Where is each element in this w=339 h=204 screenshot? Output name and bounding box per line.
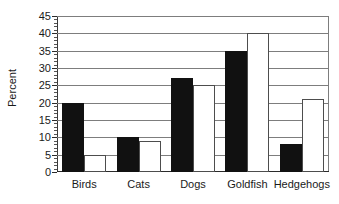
y-tick-minor (54, 99, 57, 100)
y-tick-minor (54, 123, 57, 124)
y-tick-minor (54, 96, 57, 97)
y-tick-label: 30 (39, 62, 51, 74)
y-tick-major (52, 103, 57, 104)
y-tick-label: 5 (45, 149, 51, 161)
bar (84, 155, 106, 172)
bar (62, 103, 84, 172)
y-tick-minor (54, 26, 57, 27)
y-tick-minor (54, 19, 57, 20)
y-tick-minor (54, 75, 57, 76)
bar (280, 144, 302, 172)
y-tick-minor (54, 71, 57, 72)
y-tick-minor (54, 37, 57, 38)
y-tick-major (52, 68, 57, 69)
y-tick-label: 10 (39, 131, 51, 143)
y-tick-minor (54, 23, 57, 24)
y-tick-minor (54, 144, 57, 145)
y-tick-label: 45 (39, 10, 51, 22)
y-tick-major (52, 137, 57, 138)
y-tick-label: 40 (39, 27, 51, 39)
y-tick-minor (54, 89, 57, 90)
y-tick-minor (54, 44, 57, 45)
x-axis-label: Birds (72, 178, 97, 190)
y-tick-minor (54, 151, 57, 152)
bar (302, 99, 324, 172)
bar (139, 141, 161, 172)
y-axis-title: Percent (6, 53, 18, 123)
y-tick-minor (54, 65, 57, 66)
y-tick-major (52, 172, 57, 173)
y-tick-minor (54, 61, 57, 62)
y-tick-minor (54, 130, 57, 131)
gridline (57, 16, 329, 17)
y-tick-minor (54, 158, 57, 159)
y-tick-major (52, 16, 57, 17)
y-axis-line (57, 16, 58, 172)
x-axis-label: Cats (127, 178, 150, 190)
y-tick-label: 20 (39, 97, 51, 109)
y-tick-minor (54, 165, 57, 166)
y-tick-major (52, 51, 57, 52)
x-axis-label: Dogs (180, 178, 206, 190)
x-axis-label: Hedgehogs (274, 178, 330, 190)
bar (247, 33, 269, 172)
y-tick-major (52, 33, 57, 34)
y-tick-minor (54, 117, 57, 118)
bar (117, 137, 139, 172)
gridline (57, 33, 329, 34)
bar (171, 78, 193, 172)
y-tick-minor (54, 134, 57, 135)
bar (225, 51, 247, 172)
y-tick-minor (54, 162, 57, 163)
x-axis-label: Goldfish (227, 178, 267, 190)
y-tick-major (52, 85, 57, 86)
y-tick-label: 15 (39, 114, 51, 126)
y-tick-minor (54, 141, 57, 142)
y-tick-minor (54, 30, 57, 31)
bar (193, 85, 215, 172)
y-tick-minor (54, 54, 57, 55)
y-tick-minor (54, 169, 57, 170)
plot-right-border (328, 16, 329, 172)
y-tick-minor (54, 110, 57, 111)
y-tick-minor (54, 82, 57, 83)
y-tick-minor (54, 127, 57, 128)
y-tick-minor (54, 40, 57, 41)
y-tick-label: 35 (39, 45, 51, 57)
y-tick-minor (54, 92, 57, 93)
bar-chart: Percent 051015202530354045 BirdsCatsDogs… (0, 0, 339, 204)
plot-area: 051015202530354045 (57, 16, 329, 172)
y-tick-minor (54, 106, 57, 107)
y-tick-minor (54, 58, 57, 59)
y-tick-minor (54, 47, 57, 48)
y-tick-minor (54, 113, 57, 114)
y-tick-label: 25 (39, 79, 51, 91)
gridline (57, 68, 329, 69)
y-tick-major (52, 120, 57, 121)
y-tick-label: 0 (45, 166, 51, 178)
y-tick-minor (54, 148, 57, 149)
y-tick-minor (54, 78, 57, 79)
y-tick-major (52, 155, 57, 156)
gridline (57, 51, 329, 52)
